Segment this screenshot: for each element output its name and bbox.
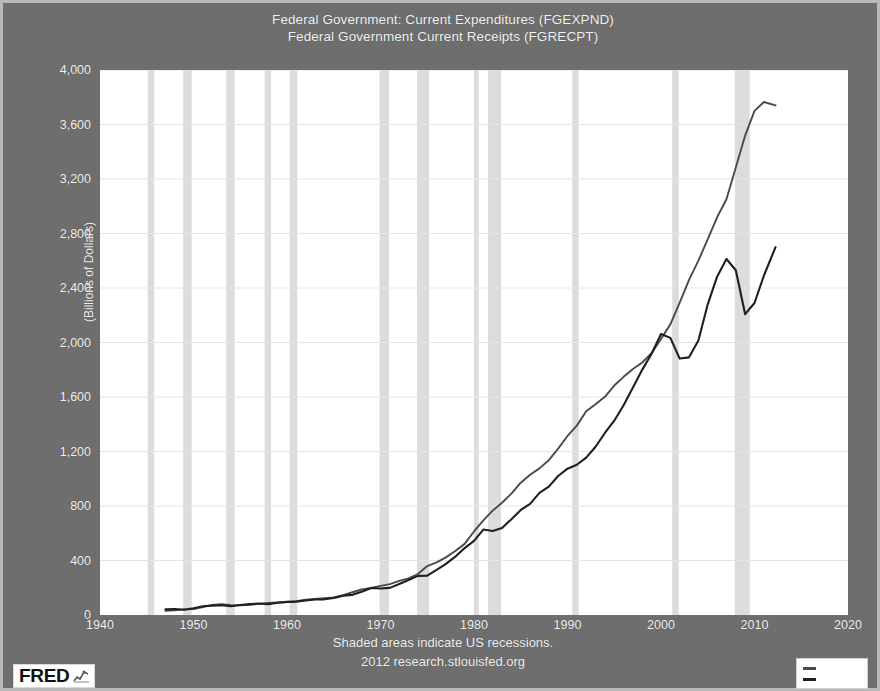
y-axis-label: (Billions of Dollars) <box>82 182 96 362</box>
y-tick-1600: 1,600 <box>33 391 91 403</box>
x-tick-1980: 1980 <box>444 619 504 632</box>
x-tick-1950: 1950 <box>164 619 224 632</box>
x-tick-2000: 2000 <box>631 619 691 632</box>
series-swatch-expenditures <box>803 667 816 670</box>
source-note: 2012 research.stlouisfed.org <box>3 652 880 671</box>
fred-logo[interactable]: FRED <box>13 664 95 688</box>
x-tick-2010: 2010 <box>725 619 785 632</box>
fred-chart-figure: Federal Government: Current Expenditures… <box>0 0 880 691</box>
y-tick-4000: 4,000 <box>33 64 91 76</box>
series-line-expenditures <box>165 102 775 611</box>
fred-logo-text: FRED <box>19 666 70 686</box>
plot-canvas <box>100 70 848 615</box>
x-tick-1960: 1960 <box>257 619 317 632</box>
plot-area <box>100 70 848 615</box>
y-tick-1200: 1,200 <box>33 446 91 458</box>
y-tick-3200: 3,200 <box>33 173 91 185</box>
chart-title-line-1: Federal Government: Current Expenditures… <box>3 11 880 28</box>
recession-note: Shaded areas indicate US recessions. <box>3 633 880 652</box>
y-tick-2400: 2,400 <box>33 282 91 294</box>
series-line-receipts <box>165 247 775 610</box>
y-tick-2000: 2,000 <box>33 337 91 349</box>
y-tick-2800: 2,800 <box>33 228 91 240</box>
x-tick-1940: 1940 <box>70 619 130 632</box>
x-tick-1990: 1990 <box>538 619 598 632</box>
legend-item-receipts <box>803 674 867 685</box>
chart-title-line-2: Federal Government Current Receipts (FGR… <box>3 28 880 45</box>
legend-item-expenditures <box>803 663 867 674</box>
x-tick-1970: 1970 <box>351 619 411 632</box>
chart-legend[interactable] <box>796 658 868 689</box>
series-swatch-receipts <box>803 678 816 681</box>
y-tick-3600: 3,600 <box>33 119 91 131</box>
x-tick-2020: 2020 <box>818 619 878 632</box>
chart-squiggle-icon <box>73 669 90 683</box>
y-tick-400: 400 <box>33 555 91 567</box>
series-lines <box>165 102 775 611</box>
y-tick-800: 800 <box>33 500 91 512</box>
chart-title: Federal Government: Current Expenditures… <box>3 11 880 45</box>
chart-footer: Shaded areas indicate US recessions. 201… <box>3 633 880 671</box>
